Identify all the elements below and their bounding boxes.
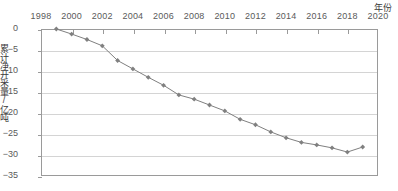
x-axis-tick [73,30,74,34]
y-axis-tick-label: 0 [0,23,18,33]
x-axis-tick [195,30,196,34]
x-axis-tick-label: 2004 [116,11,150,21]
y-axis-tick-label: −30 [0,149,18,159]
x-axis-tick-label: 2020 [361,11,395,21]
y-axis-tick [38,135,42,136]
x-axis-tick-label: 2002 [85,11,119,21]
y-axis-tick [38,30,42,31]
x-axis-tick [165,30,166,34]
y-axis-tick-label: −5 [0,44,18,54]
y-axis-tick [38,93,42,94]
y-axis-tick-label: −35 [0,170,18,180]
x-axis-tick-label: 2016 [300,11,334,21]
x-axis-tick-label: 2012 [238,11,272,21]
y-axis-tick-label: −10 [0,65,18,75]
y-axis-tick-label: −20 [0,107,18,117]
x-axis-tick-label: 1998 [24,11,58,21]
gridline [42,93,377,94]
plot-area [41,29,378,176]
y-axis-tick-label: −15 [0,86,18,96]
gridline [42,156,377,157]
gridline [42,51,377,52]
gridline [42,114,377,115]
x-axis-tick-label: 2018 [330,11,364,21]
y-axis-tick [38,156,42,157]
x-axis-tick [348,30,349,34]
x-axis-tick [226,30,227,34]
y-axis-tick [38,72,42,73]
y-axis-tick [38,51,42,52]
x-axis-tick-label: 2014 [269,11,303,21]
x-axis-tick-label: 2008 [177,11,211,21]
gridline [42,135,377,136]
x-axis-tick-label: 2006 [147,11,181,21]
x-axis-tick [103,30,104,34]
y-axis-tick-label: −25 [0,128,18,138]
x-axis-tick [134,30,135,34]
x-axis-tick-label: 2010 [208,11,242,21]
x-axis-tick [287,30,288,34]
x-axis-tick [256,30,257,34]
y-axis-tick [38,114,42,115]
x-axis-tick-label: 2000 [55,11,89,21]
chart-root: 年份 累计净开采量/亿吨 0−5−10−15−20−25−30−35 19982… [0,0,398,191]
x-axis-tick [318,30,319,34]
y-axis-tick [38,177,42,178]
gridline [42,72,377,73]
